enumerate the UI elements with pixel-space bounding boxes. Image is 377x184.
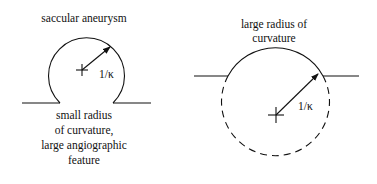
right-panel: large radius of curvature 1/κ (194, 18, 359, 156)
radius-arrow (82, 47, 110, 70)
right-title-line-1: large radius of (241, 18, 307, 31)
left-caption-line-4: feature (68, 154, 100, 166)
curvature-diagram: saccular aneurysm 1/κ small radius of cu… (0, 0, 377, 184)
left-panel: saccular aneurysm 1/κ small radius of cu… (22, 12, 151, 166)
left-caption-line-3: large angiographic (41, 139, 127, 152)
left-caption-line-2: of curvature, (55, 124, 114, 137)
left-title: saccular aneurysm (41, 12, 126, 25)
right-title-line-2: curvature (252, 32, 295, 44)
left-radius-label: 1/κ (99, 68, 114, 80)
left-caption-line-1: small radius (56, 109, 112, 121)
right-radius-label: 1/κ (298, 100, 313, 112)
curvature-arc-solid (228, 48, 323, 76)
